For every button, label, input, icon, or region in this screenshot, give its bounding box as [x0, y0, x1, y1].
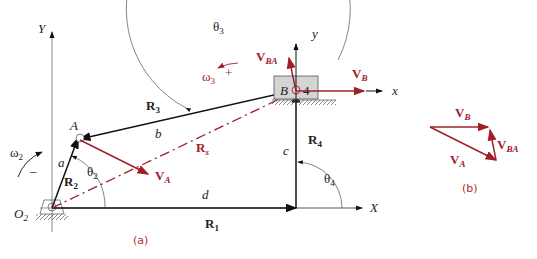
label-r4: R4 [308, 132, 322, 149]
label-b: B [280, 83, 288, 98]
label-theta2: θ2 [87, 164, 98, 181]
label-c: c [283, 143, 289, 158]
label-r2: R2 [64, 174, 78, 191]
label-a: A [69, 118, 78, 133]
omega3-sign: + [225, 65, 232, 80]
label-vba: VBA [256, 49, 277, 66]
label-theta3: θ3 [213, 19, 224, 36]
label-slider-4: 4 [303, 83, 310, 98]
caption-a: (a) [133, 234, 148, 247]
label-vb: VB [352, 66, 367, 83]
label-omega2: ω2 [10, 145, 23, 162]
caption-b: (b) [462, 182, 478, 195]
polygon-label-vb: VB [455, 105, 470, 122]
local-axis-label-x: x [391, 83, 398, 98]
label-a-length: a [58, 155, 65, 170]
label-r3: R3 [146, 98, 160, 115]
theta4-arc [298, 162, 342, 208]
label-theta4: θ4 [324, 171, 335, 188]
label-va: VA [155, 168, 170, 185]
label-r1: R1 [205, 216, 219, 233]
label-o2: O2 [14, 206, 28, 223]
omega2-sign: – [29, 163, 37, 178]
polygon-label-vba: VBA [497, 137, 518, 154]
polygon-label-va: VA [450, 152, 465, 169]
label-rs: Rs [196, 140, 209, 157]
local-axis-label-y: y [310, 26, 318, 41]
vector-r3 [80, 90, 296, 139]
label-d: d [202, 187, 209, 202]
label-b-length: b [155, 126, 162, 141]
velocity-polygon [430, 127, 496, 160]
fourbar-velocity-diagram: Y X y x O2 A B 4 R1 d R2 a R3 b R4 c Rs … [0, 0, 537, 259]
axis-label-x: X [369, 200, 379, 215]
axis-label-y: Y [38, 21, 47, 36]
vector-rs [52, 92, 294, 208]
label-omega3: ω3 [202, 69, 216, 86]
